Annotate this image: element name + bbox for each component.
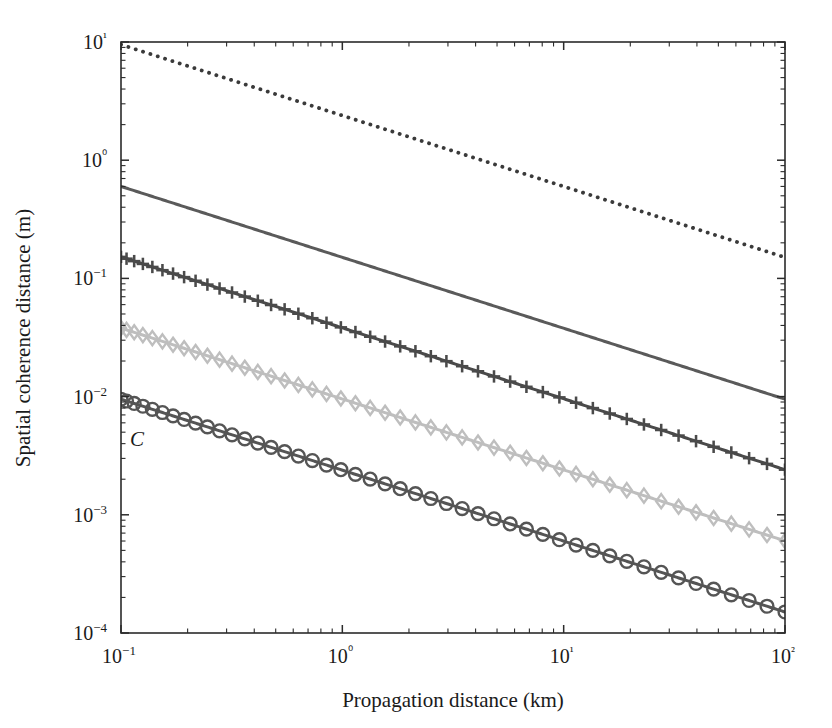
tick-label: 10−1 <box>73 265 107 289</box>
coherence-distance-chart: 10−110⁰10¹10² 10−410−310−210−110⁰10¹ Pro… <box>0 0 832 728</box>
y-axis-tick-labels: 10−410−310−210−110⁰10¹ <box>73 29 107 644</box>
legend: C <box>130 427 145 451</box>
tick-label: 10−1 <box>102 643 136 667</box>
chart-curves <box>115 45 792 619</box>
series-1 <box>121 45 785 258</box>
series-line <box>121 45 785 258</box>
tick-label: 10−4 <box>73 620 107 644</box>
legend-title: C <box>130 427 145 451</box>
tick-label: 10−2 <box>73 384 107 408</box>
series-markers <box>115 393 792 619</box>
tick-label: 10−3 <box>73 502 107 526</box>
x-axis-tick-labels: 10−110⁰10¹10² <box>102 643 795 667</box>
tick-label: 10¹ <box>550 643 574 667</box>
y-axis-label: Spatial coherence distance (m) <box>11 209 35 467</box>
series-line <box>121 328 785 541</box>
tick-label: 10⁰ <box>328 643 353 667</box>
tick-label: 10⁰ <box>82 147 107 171</box>
figure-container: 10−110⁰10¹10² 10−410−310−210−110⁰10¹ Pro… <box>0 0 832 728</box>
x-axis-label: Propagation distance (km) <box>342 688 564 712</box>
series-4 <box>116 321 790 548</box>
axes-frame <box>121 42 785 633</box>
series-5 <box>115 393 792 619</box>
tick-label: 10¹ <box>83 29 107 53</box>
tick-label: 10² <box>771 643 795 667</box>
